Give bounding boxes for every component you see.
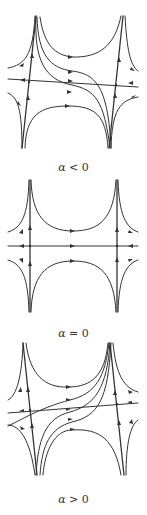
trajectory xyxy=(8,260,29,312)
trajectory xyxy=(8,343,109,426)
trajectory xyxy=(26,343,108,387)
alpha-symbol: α xyxy=(58,493,65,506)
panel-alpha-positive xyxy=(8,343,138,475)
trajectory xyxy=(118,180,138,232)
trajectory xyxy=(126,420,138,475)
trajectory xyxy=(40,343,111,475)
panel-label-alpha-zero: α = 0 xyxy=(0,327,147,340)
trajectory xyxy=(25,106,108,148)
relation-text: > 0 xyxy=(66,493,89,506)
trajectory xyxy=(37,17,111,148)
relation-text: < 0 xyxy=(66,161,89,174)
trajectory xyxy=(40,16,121,57)
trajectory xyxy=(8,425,35,475)
trajectory xyxy=(125,16,138,71)
right-separatrix xyxy=(109,16,123,148)
trajectory xyxy=(43,430,121,475)
right-separatrix xyxy=(110,343,124,475)
trajectory xyxy=(8,93,22,148)
trajectory xyxy=(31,261,116,312)
trajectory xyxy=(31,180,116,231)
phase-portrait-figure xyxy=(0,0,147,515)
panel-label-alpha-positive: α > 0 xyxy=(0,493,147,506)
trajectory xyxy=(111,97,138,148)
alpha-symbol: α xyxy=(58,161,65,174)
trajectory xyxy=(118,260,138,312)
panel-alpha-zero xyxy=(8,180,138,312)
relation-text: = 0 xyxy=(66,327,89,340)
trajectory xyxy=(8,180,29,232)
panel-alpha-negative xyxy=(8,16,138,148)
horizontal-separatrix xyxy=(8,79,138,87)
panel-label-alpha-negative: α < 0 xyxy=(0,161,147,174)
alpha-symbol: α xyxy=(58,327,65,340)
trajectory xyxy=(113,343,138,392)
